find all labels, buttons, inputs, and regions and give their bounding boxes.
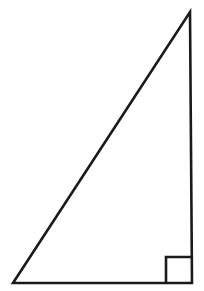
right-triangle-figure	[0, 0, 204, 291]
figure-canvas	[0, 0, 204, 291]
